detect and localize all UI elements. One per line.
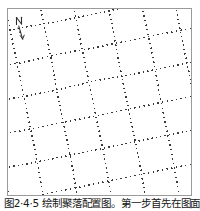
figure-caption: 图2·4·5绘制聚落配置图。第一步首先在图面上 [4, 197, 200, 210]
north-arrow-icon [13, 15, 35, 43]
figure-root: .gl { stroke: #3a3a3a; stroke-width: 1.5… [0, 0, 200, 211]
grid-family-b [8, 9, 191, 195]
settlement-grid-map: .gl { stroke: #3a3a3a; stroke-width: 1.5… [8, 9, 191, 195]
grid-family-a [8, 9, 191, 195]
caption-number: 图2·4·5 [4, 197, 39, 209]
caption-text: 绘制聚落配置图。第一步首先在图面上 [42, 197, 200, 209]
